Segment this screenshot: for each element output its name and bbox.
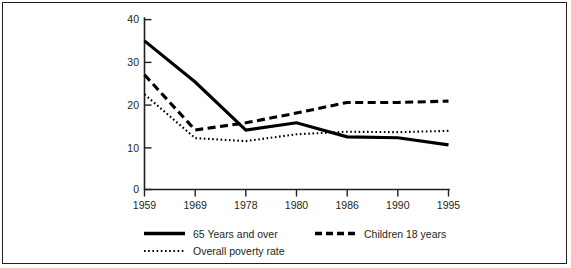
figure-frame: 40 30 20 10 0 1959 1969 1978 1980 1986 1…: [2, 2, 567, 264]
legend-label-overall-poverty-rate: Overall poverty rate: [193, 245, 285, 257]
y-tick-label-10: 10: [127, 142, 139, 154]
legend-label-children-18-years: Children 18 years: [364, 228, 446, 240]
chart-legend: 65 Years and over Children 18 years Over…: [144, 228, 446, 258]
y-tick-label-30: 30: [127, 56, 139, 68]
x-tick-label-1995: 1995: [437, 199, 461, 211]
x-tick-label-1990: 1990: [386, 199, 410, 211]
x-tick-label-1986: 1986: [336, 199, 360, 211]
x-axis-ticks: [145, 190, 449, 197]
chart-area: 40 30 20 10 0 1959 1969 1978 1980 1986 1…: [3, 3, 568, 265]
x-tick-label-1969: 1969: [184, 199, 208, 211]
y-tick-label-40: 40: [127, 13, 139, 25]
poverty-rate-line-chart: 40 30 20 10 0 1959 1969 1978 1980 1986 1…: [3, 3, 568, 265]
x-tick-label-1959: 1959: [133, 199, 157, 211]
x-tick-label-1978: 1978: [234, 199, 258, 211]
x-tick-label-1980: 1980: [285, 199, 309, 211]
axis-lines: [145, 18, 450, 190]
y-tick-label-20: 20: [127, 99, 139, 111]
series-line-overall-poverty-rate: [145, 94, 449, 141]
y-tick-label-0: 0: [133, 183, 139, 195]
series-line-65-years-and-over: [145, 41, 449, 145]
legend-label-65-years-and-over: 65 Years and over: [193, 228, 278, 240]
